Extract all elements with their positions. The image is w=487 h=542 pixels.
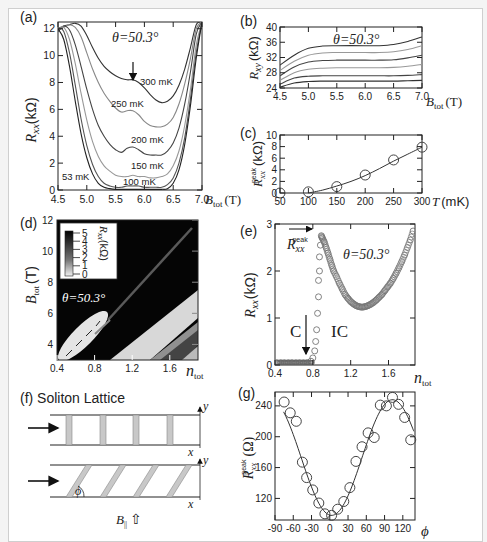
svg-text:0.8: 0.8 — [88, 363, 102, 374]
svg-text:Rxy(kΩ): Rxy(kΩ) — [246, 36, 263, 81]
svg-text:5.5: 5.5 — [108, 193, 123, 205]
svg-text:0: 0 — [82, 269, 88, 280]
panel-c-axes — [280, 135, 422, 193]
svg-text:12: 12 — [43, 22, 55, 34]
panel-c-label: (c) — [240, 125, 256, 141]
soliton-strip-tilted: ϕ y x — [28, 453, 209, 511]
svg-text:6.5: 6.5 — [387, 91, 401, 102]
panel-c-ylabel: Rxxpeak(kΩ) — [250, 141, 267, 188]
svg-text:Rxx(kΩ): Rxx(kΩ) — [96, 225, 110, 261]
angle-phi-label: ϕ — [75, 484, 81, 498]
svg-text:6: 6 — [49, 103, 55, 115]
panel-a: (a) 4.55.05.56.06.57.0024681012 θ=50.3° … — [20, 9, 241, 209]
panel-a-xlabel: Btot(T) — [205, 192, 241, 209]
panel-f-label: (f) Soliton Lattice — [20, 390, 125, 406]
svg-text:1.6: 1.6 — [382, 368, 396, 379]
svg-text:Rxxpeak(kΩ): Rxxpeak(kΩ) — [250, 141, 267, 188]
panel-d: (d) 0.40.81.21.64681012 543210 — [20, 215, 204, 381]
svg-text:2: 2 — [271, 176, 277, 187]
svg-text:-60: -60 — [286, 523, 301, 534]
panel-b: (b) 4.55.05.56.06.57.02428323640 θ=50.3°… — [240, 13, 462, 111]
figure-canvas: (a) 4.55.05.56.06.57.0024681012 θ=50.3° … — [0, 0, 487, 542]
svg-text:y: y — [202, 399, 209, 413]
svg-text:x: x — [187, 497, 194, 511]
svg-text:120: 120 — [255, 493, 272, 504]
svg-text:4: 4 — [47, 339, 53, 350]
panel-c-xlabel: T(mK) — [432, 194, 469, 209]
curve-label-250mk: 250 mK — [111, 98, 144, 109]
svg-text:-90: -90 — [268, 523, 283, 534]
panel-c-ticks: 501001502002503000246810 — [266, 130, 431, 208]
curve-label-53mk: 53 mK — [62, 171, 90, 182]
svg-text:200: 200 — [255, 431, 272, 442]
svg-text:30: 30 — [342, 523, 354, 534]
curve-label-150mk: 150 mK — [131, 160, 164, 171]
panel-b-angle-annotation: θ=50.3° — [333, 32, 380, 47]
svg-text:200: 200 — [357, 196, 374, 207]
svg-text:2: 2 — [49, 157, 55, 169]
svg-text:Btot(T): Btot(T) — [23, 266, 41, 304]
svg-text:12: 12 — [42, 215, 54, 226]
svg-text:Rxxpeak(Ω): Rxxpeak(Ω) — [240, 436, 258, 480]
panel-g: (g) -90-60-300306090120120160200240 Rxxp… — [238, 385, 429, 539]
panel-b-ylabel: Rxy(kΩ) — [246, 36, 263, 81]
svg-text:40: 40 — [266, 22, 278, 33]
svg-text:0.8: 0.8 — [306, 368, 320, 379]
svg-text:0: 0 — [271, 188, 277, 199]
svg-text:6.0: 6.0 — [137, 193, 152, 205]
svg-text:y: y — [202, 453, 209, 467]
svg-text:1.6: 1.6 — [163, 363, 177, 374]
panel-c-plot — [275, 142, 427, 198]
svg-text:5.5: 5.5 — [330, 91, 344, 102]
svg-text:5.0: 5.0 — [79, 193, 94, 205]
svg-text:x: x — [187, 445, 194, 459]
svg-text:250: 250 — [385, 196, 402, 207]
svg-text:8: 8 — [47, 277, 53, 288]
panel-g-ticks: -90-60-300306090120120160200240 — [255, 392, 415, 534]
panel-d-ylabel: Btot(T) — [23, 266, 41, 304]
svg-text:28: 28 — [266, 67, 278, 78]
svg-text:8: 8 — [49, 76, 55, 88]
svg-text:Rxx(kΩ): Rxx(kΩ) — [23, 97, 41, 143]
panel-a-label: (a) — [20, 9, 37, 25]
panel-d-label: (d) — [20, 215, 37, 231]
svg-text:120: 120 — [394, 523, 411, 534]
panel-g-plot — [279, 392, 416, 520]
svg-text:3: 3 — [266, 219, 272, 230]
panel-d-xlabel: ntot — [186, 362, 204, 381]
panel-d-colorbar: 543210 Rxx(kΩ) — [60, 223, 117, 280]
panel-b-xlabel: Btot(T) — [426, 94, 462, 111]
svg-text:8: 8 — [271, 141, 277, 152]
svg-text:24: 24 — [266, 83, 278, 94]
svg-text:150: 150 — [328, 196, 345, 207]
svg-text:0: 0 — [49, 184, 55, 196]
region-commensurate: C — [290, 322, 301, 341]
panel-e-xlabel: ntot — [414, 369, 432, 388]
svg-text:5.0: 5.0 — [301, 91, 315, 102]
svg-text:36: 36 — [266, 37, 278, 48]
svg-text:-30: -30 — [304, 523, 319, 534]
panel-g-ylabel: Rxxpeak(Ω) — [240, 436, 258, 480]
svg-text:90: 90 — [379, 523, 391, 534]
svg-text:0: 0 — [327, 523, 333, 534]
svg-text:4: 4 — [271, 164, 277, 175]
svg-text:300: 300 — [414, 196, 431, 207]
curve-label-100mk: 100 mK — [123, 176, 156, 187]
parallel-field-label: B||⇧ — [116, 511, 142, 529]
svg-text:10: 10 — [266, 130, 278, 141]
curve-label-300mk: 300 mK — [140, 76, 173, 87]
panel-d-angle-annotation: θ=50.3° — [62, 290, 105, 305]
svg-text:60: 60 — [361, 523, 373, 534]
panel-b-label: (b) — [240, 13, 257, 29]
curve-label-200mk: 200 mK — [131, 134, 164, 145]
svg-text:6: 6 — [47, 308, 53, 319]
panel-e: (e) 0.40.81.21.60123 Rxxpeak θ=50.3° C I… — [240, 219, 432, 389]
panel-c: (c) 501001502002503000246810 Rxxpeak(kΩ)… — [240, 125, 469, 209]
peak-label: Rxxpeak — [286, 236, 308, 254]
svg-text:1.2: 1.2 — [125, 363, 139, 374]
svg-text:6.5: 6.5 — [166, 193, 181, 205]
svg-text:4: 4 — [49, 130, 55, 142]
svg-text:2: 2 — [266, 266, 272, 277]
svg-text:32: 32 — [266, 52, 278, 63]
soliton-strip-perpendicular: y x — [28, 399, 209, 459]
